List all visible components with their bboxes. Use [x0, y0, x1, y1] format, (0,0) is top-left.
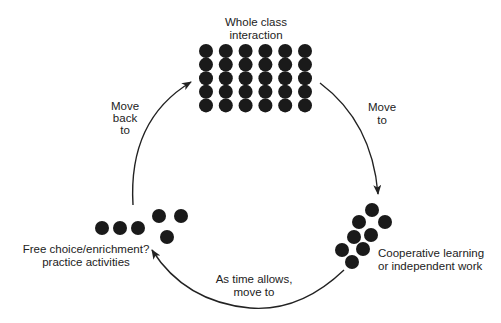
- node-label-line: or independent work: [378, 260, 482, 272]
- arrow-free-choice-to-whole: [133, 82, 191, 205]
- student-dot: [219, 44, 233, 58]
- student-dot: [278, 98, 292, 112]
- edge-label-line: Move: [368, 101, 396, 113]
- student-dot: [258, 85, 272, 99]
- dot-grid-whole-class: [199, 44, 312, 112]
- edge-label-line: to: [377, 114, 387, 126]
- student-dot: [298, 58, 312, 72]
- student-dot: [298, 71, 312, 85]
- edge-label-as-time-allows: As time allows, move to: [216, 273, 293, 298]
- node-free-choice: Free choice/enrichment? practice activit…: [23, 209, 188, 268]
- student-dot: [239, 71, 253, 85]
- node-label-line: practice activities: [42, 256, 130, 268]
- student-dot: [199, 98, 213, 112]
- arrow-whole-to-cooperative: [320, 83, 378, 194]
- edge-label-move-to: Move to: [368, 101, 396, 126]
- student-dot: [199, 44, 213, 58]
- student-dot: [298, 44, 312, 58]
- edge-label-line: back: [113, 112, 138, 124]
- student-dot: [199, 71, 213, 85]
- edge-label-move-back-to: Move back to: [111, 100, 139, 136]
- student-dot: [219, 98, 233, 112]
- edge-label-line: to: [120, 124, 130, 136]
- student-dot: [239, 58, 253, 72]
- student-dot: [258, 58, 272, 72]
- student-dot: [258, 44, 272, 58]
- student-dot: [278, 85, 292, 99]
- edge-label-line: As time allows,: [216, 273, 293, 285]
- node-label-line: Cooperative learning: [378, 247, 484, 259]
- node-cooperative: Cooperative learning or independent work: [335, 203, 484, 272]
- student-dot: [298, 85, 312, 99]
- node-label-line: Free choice/enrichment?: [23, 243, 150, 255]
- student-dot: [239, 85, 253, 99]
- student-dot: [258, 71, 272, 85]
- student-dot: [239, 98, 253, 112]
- dot-cluster-free-choice: [95, 209, 188, 244]
- student-dot: [278, 71, 292, 85]
- student-dot: [199, 58, 213, 72]
- node-whole-class: Whole class interaction: [199, 16, 312, 112]
- cycle-diagram: Whole class interaction Cooperative lear…: [0, 0, 501, 323]
- student-dot: [219, 85, 233, 99]
- student-dot: [239, 44, 253, 58]
- student-dot: [278, 58, 292, 72]
- student-dot: [199, 85, 213, 99]
- node-label-line: interaction: [229, 29, 282, 41]
- student-dot: [219, 71, 233, 85]
- student-dot: [298, 98, 312, 112]
- edge-label-line: Move: [111, 100, 139, 112]
- student-dot: [219, 58, 233, 72]
- node-label-line: Whole class: [225, 16, 287, 28]
- edge-label-line: move to: [234, 286, 275, 298]
- student-dot: [278, 44, 292, 58]
- student-dot: [258, 98, 272, 112]
